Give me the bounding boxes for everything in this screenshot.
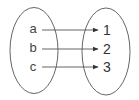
domain-element-c: c (30, 60, 37, 74)
codomain-element-3: 3 (103, 60, 111, 74)
codomain-element-1: 1 (103, 23, 111, 37)
domain-element-b: b (29, 41, 36, 55)
mapping-diagram (0, 0, 139, 100)
domain-element-a: a (29, 22, 36, 36)
codomain-element-2: 2 (103, 42, 111, 56)
